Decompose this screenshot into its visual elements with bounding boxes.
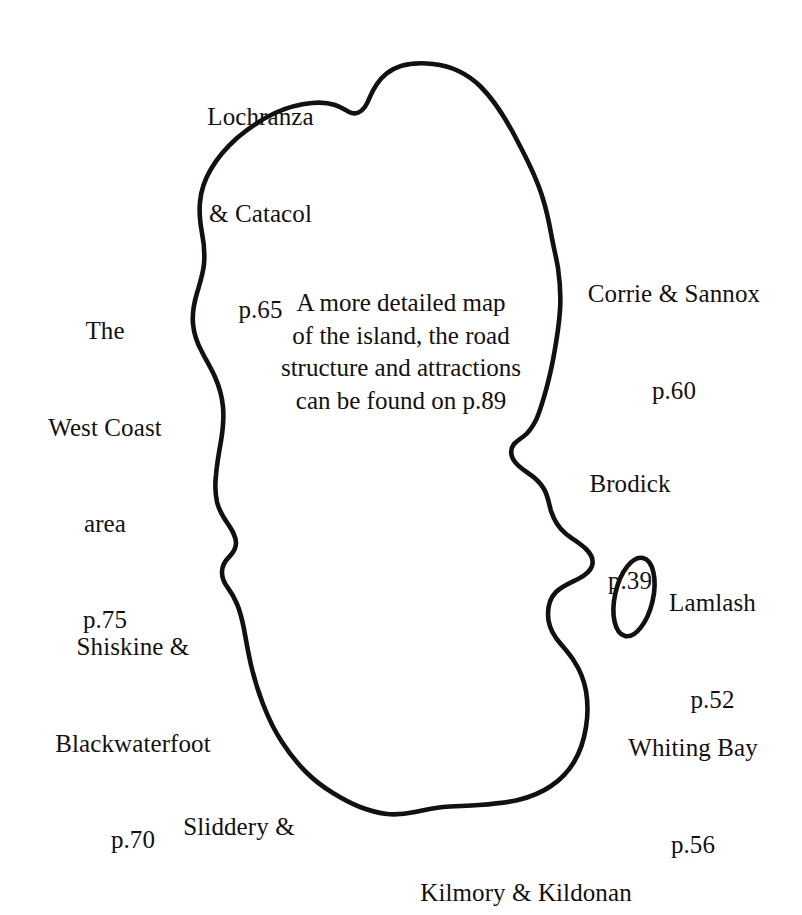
- region-label-kilmory-kildonan[interactable]: Kilmory & Kildonan p.79: [388, 813, 664, 915]
- region-label-line: Whiting Bay: [598, 732, 788, 764]
- region-label-line: The: [30, 315, 180, 347]
- region-label-line: area: [30, 508, 180, 540]
- region-label-line: West Coast: [30, 412, 180, 444]
- region-label-sliddery-corriecravie[interactable]: Sliddery & Corriecravie p.82: [144, 747, 334, 915]
- region-label-line: Corriecravie: [144, 908, 334, 915]
- map-figure: A more detailed map of the island, the r…: [0, 0, 802, 915]
- region-label-line: Lochranza: [178, 101, 343, 133]
- region-label-line: Brodick: [570, 468, 690, 500]
- region-label-line: Sliddery &: [144, 811, 334, 843]
- region-label-line: & Catacol: [178, 198, 343, 230]
- region-label-page: p.65: [178, 294, 343, 326]
- region-label-line: Corrie & Sannox: [563, 278, 785, 310]
- region-label-page: p.60: [563, 375, 785, 407]
- region-label-line: Shiskine &: [33, 631, 233, 663]
- region-label-lochranza-catacol[interactable]: Lochranza & Catacol p.65: [178, 37, 343, 390]
- region-label-line: Kilmory & Kildonan: [388, 877, 664, 909]
- region-label-line: Lamlash: [640, 587, 785, 619]
